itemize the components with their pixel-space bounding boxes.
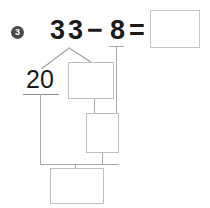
subtrahend-drop-line <box>116 46 117 114</box>
top-to-middle-connector <box>94 99 95 114</box>
answer-input-box[interactable] <box>150 10 200 48</box>
work-box-top[interactable] <box>68 62 114 99</box>
subtrahend-digit: 8 <box>110 17 125 44</box>
minuend-ones-digit: 3 <box>68 17 83 44</box>
subtraction-worksheet-problem: 3 3 3 − 8 = 20 <box>0 0 210 208</box>
equals-sign-icon: = <box>129 17 145 44</box>
work-box-bottom[interactable] <box>50 168 104 204</box>
minus-sign-icon: − <box>87 17 103 44</box>
minuend-tens-digit: 3 <box>50 17 65 44</box>
circled-number-badge-icon: 3 <box>11 26 24 39</box>
tens-drop-line <box>40 94 41 165</box>
tens-part-label: 20 <box>26 67 54 92</box>
lower-horizontal-connector <box>40 164 119 165</box>
work-box-middle[interactable] <box>86 113 119 153</box>
tens-underline-rule <box>23 94 59 95</box>
